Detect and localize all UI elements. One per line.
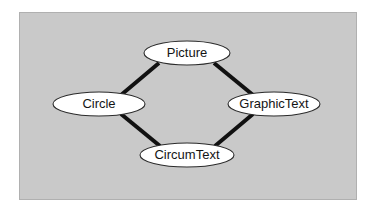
edge-graphictext-circumtext [215,114,253,146]
node-circle[interactable]: Circle [53,92,145,116]
edge-circle-circumtext [121,114,160,146]
node-circumtext[interactable]: CircumText [140,143,234,167]
node-picture[interactable]: Picture [144,41,230,65]
node-graphictext-label: GraphicText [239,96,309,111]
graph-svg: Picture Circle GraphicText CircumText [0,0,378,215]
diagram-canvas: Picture Circle GraphicText CircumText [0,0,378,215]
node-circumtext-label: CircumText [154,147,219,162]
node-graphictext[interactable]: GraphicText [228,92,320,116]
node-picture-label: Picture [167,45,207,60]
edge-picture-circle [121,63,159,95]
edge-picture-graphictext [214,63,253,95]
node-circle-label: Circle [82,96,115,111]
